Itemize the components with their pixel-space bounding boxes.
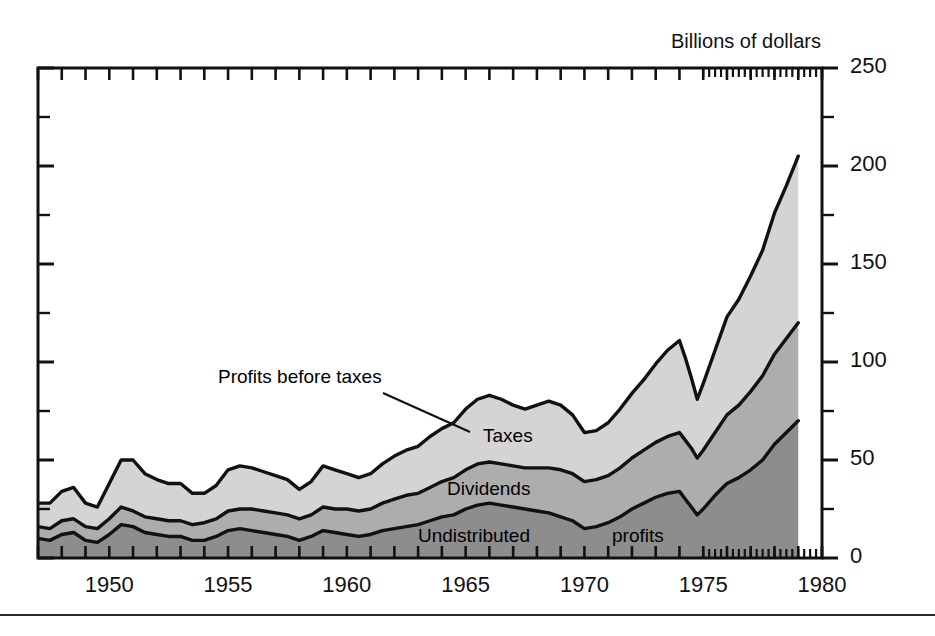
chart-axis-title: Billions of dollars	[671, 30, 821, 53]
y-tick-label-0: 0	[850, 543, 862, 569]
y-tick-label-200: 200	[850, 151, 887, 177]
y-tick-label-250: 250	[850, 53, 887, 79]
x-tick-label-1975: 1975	[679, 572, 728, 598]
series-label-undistributed: Undistributed	[418, 525, 530, 547]
x-tick-label-1955: 1955	[204, 572, 253, 598]
y-tick-label-150: 150	[850, 249, 887, 275]
series-label-profits-before-taxes: Profits before taxes	[218, 366, 382, 388]
y-tick-label-50: 50	[850, 445, 874, 471]
x-tick-label-1950: 1950	[85, 572, 134, 598]
x-tick-label-1970: 1970	[560, 572, 609, 598]
x-tick-label-1965: 1965	[441, 572, 490, 598]
x-tick-label-1960: 1960	[322, 572, 371, 598]
annotation-leader-line	[383, 393, 470, 432]
series-label-dividends: Dividends	[447, 478, 530, 500]
series-label-taxes: Taxes	[483, 425, 533, 447]
page-separator-rule	[0, 614, 935, 616]
y-tick-label-100: 100	[850, 347, 887, 373]
chart-figure: Billions of dollars 0 50 100 150 200 250…	[0, 0, 935, 636]
series-label-undistributed-profits: profits	[612, 525, 664, 547]
x-tick-label-1980: 1980	[798, 572, 847, 598]
